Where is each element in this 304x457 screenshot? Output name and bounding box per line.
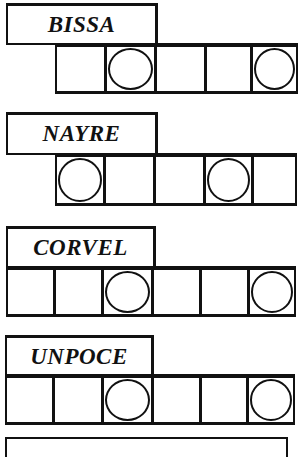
circle-marker-icon xyxy=(58,158,102,202)
circle-marker-icon xyxy=(105,271,150,313)
circled-letter-cell[interactable] xyxy=(55,156,104,204)
letter-cell[interactable] xyxy=(154,156,204,204)
scrambled-word-box: UNPOCE xyxy=(5,335,154,377)
letter-cell[interactable] xyxy=(252,156,297,204)
letter-cell[interactable] xyxy=(200,377,247,423)
letter-cell[interactable] xyxy=(54,269,102,315)
letter-cell[interactable] xyxy=(152,377,200,423)
circled-letter-cell[interactable] xyxy=(248,269,296,315)
circle-marker-icon xyxy=(207,158,250,202)
circled-letter-cell[interactable] xyxy=(105,46,155,92)
letter-cell[interactable] xyxy=(53,377,102,423)
circle-marker-icon xyxy=(254,48,295,90)
letter-cell[interactable] xyxy=(152,269,200,315)
answer-cells-row xyxy=(6,266,296,317)
scrambled-word-box: BISSA xyxy=(6,3,158,45)
letter-cell[interactable] xyxy=(6,269,54,315)
scrambled-word: NAYRE xyxy=(8,115,155,153)
answer-box xyxy=(5,437,288,457)
letter-cell[interactable] xyxy=(200,269,248,315)
answer-cells-row xyxy=(55,153,297,206)
letter-cell[interactable] xyxy=(205,46,251,92)
letter-cell[interactable] xyxy=(104,156,154,204)
scrambled-word: UNPOCE xyxy=(7,338,151,375)
circle-marker-icon xyxy=(251,271,293,313)
circle-marker-icon xyxy=(108,48,153,90)
scrambled-word-box: NAYRE xyxy=(6,112,158,155)
circled-letter-cell[interactable] xyxy=(247,377,295,423)
circled-letter-cell[interactable] xyxy=(102,269,152,315)
circle-marker-icon xyxy=(105,379,150,421)
scrambled-word: CORVEL xyxy=(8,229,153,267)
scrambled-word: BISSA xyxy=(8,6,155,43)
scrambled-word-box: CORVEL xyxy=(6,226,156,269)
circle-marker-icon xyxy=(250,379,292,421)
answer-cells-row xyxy=(55,43,298,94)
letter-cell[interactable] xyxy=(5,377,53,423)
letter-cell[interactable] xyxy=(155,46,205,92)
letter-cell[interactable] xyxy=(55,46,105,92)
circled-letter-cell[interactable] xyxy=(102,377,152,423)
circled-letter-cell[interactable] xyxy=(204,156,252,204)
answer-cells-row xyxy=(5,374,295,425)
circled-letter-cell[interactable] xyxy=(251,46,298,92)
